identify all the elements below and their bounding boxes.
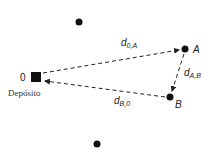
edge-a-b (172, 54, 184, 91)
customer-node (76, 19, 83, 26)
edge-label-b-0: dB,0 (114, 95, 130, 107)
depot-label: Depósito (8, 88, 41, 98)
node-b-label: B (175, 99, 182, 110)
node-b (167, 94, 174, 101)
node-a (182, 46, 189, 53)
depot-node (31, 72, 41, 82)
edge-label-0-a: d0,A (121, 37, 137, 49)
node-a-label: A (192, 44, 200, 55)
customer-node (94, 141, 101, 148)
depot-id-label: 0 (20, 72, 26, 83)
edge-0-a (43, 50, 179, 73)
edge-b-0 (45, 81, 165, 97)
route-diagram: 0 Depósito A B d0,A dA,B dB,0 (0, 0, 213, 157)
edge-label-a-b: dA,B (184, 67, 201, 79)
